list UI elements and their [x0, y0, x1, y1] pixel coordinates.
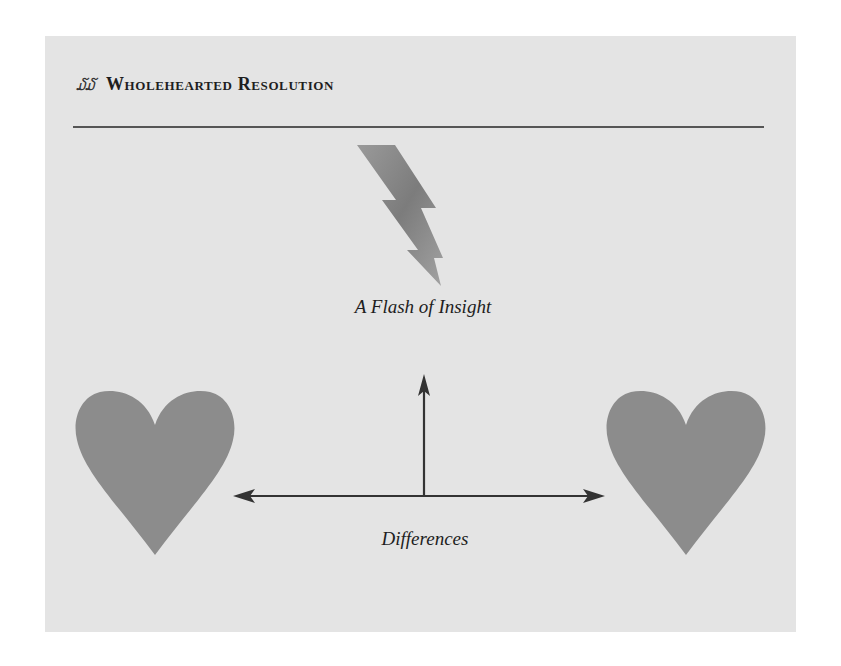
differences-label: Differences	[382, 528, 469, 550]
right-heart-icon	[607, 391, 766, 555]
left-heart-icon	[76, 391, 235, 555]
diagram-canvas	[0, 0, 841, 666]
horizontal-double-arrow	[233, 489, 605, 503]
flash-of-insight-label: A Flash of Insight	[355, 296, 491, 318]
lightning-bolt-icon	[357, 145, 443, 286]
vertical-arrow	[418, 374, 430, 496]
